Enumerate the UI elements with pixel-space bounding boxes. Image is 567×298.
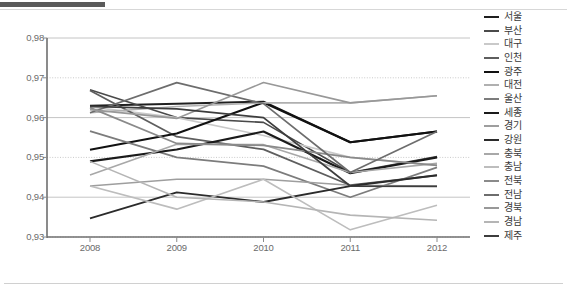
legend-item[interactable]: 대구 xyxy=(484,37,567,51)
y-tick-label: 0,94 xyxy=(2,191,44,202)
legend-swatch-icon xyxy=(484,57,499,59)
legend-item-label: 대구 xyxy=(504,39,522,49)
legend-item[interactable]: 인천 xyxy=(484,51,567,65)
x-tick-label: 2012 xyxy=(415,242,459,253)
series-line xyxy=(90,161,437,220)
legend-swatch-icon xyxy=(484,125,499,127)
legend-swatch-icon xyxy=(484,30,499,32)
legend-swatch-icon xyxy=(484,235,499,237)
legend-item-label: 경남 xyxy=(504,217,522,227)
legend-item-label: 충남 xyxy=(504,162,522,172)
legend-item-label: 경북 xyxy=(504,203,522,213)
line-chart: 0,980,970,960,950,940,93 200820092010201… xyxy=(0,14,567,276)
legend-item-label: 제주 xyxy=(504,231,522,241)
legend-swatch-icon xyxy=(484,194,499,196)
legend-swatch-icon xyxy=(484,84,499,86)
legend-swatch-icon xyxy=(484,16,499,18)
legend-item[interactable]: 세종 xyxy=(484,106,567,120)
legend-item[interactable]: 광주 xyxy=(484,65,567,79)
legend-item[interactable]: 경기 xyxy=(484,120,567,134)
legend-item[interactable]: 부산 xyxy=(484,24,567,38)
legend-item-label: 광주 xyxy=(504,67,522,77)
legend-item[interactable]: 전북 xyxy=(484,174,567,188)
chart-legend: 서울부산대구인천광주대전울산세종경기강원충북충남전북전남경북경남제주 xyxy=(484,10,567,243)
legend-item-label: 세종 xyxy=(504,108,522,118)
legend-swatch-icon xyxy=(484,139,499,141)
legend-item[interactable]: 강원 xyxy=(484,133,567,147)
y-tick-label: 0,93 xyxy=(2,231,44,242)
legend-swatch-icon xyxy=(484,98,499,100)
x-tick-label: 2010 xyxy=(242,242,286,253)
legend-item-label: 전남 xyxy=(504,190,522,200)
legend-item[interactable]: 경북 xyxy=(484,202,567,216)
legend-item[interactable]: 울산 xyxy=(484,92,567,106)
legend-swatch-icon xyxy=(484,221,499,223)
x-tick-label: 2011 xyxy=(328,242,372,253)
legend-swatch-icon xyxy=(484,112,499,114)
top-bar-decoration xyxy=(0,2,105,7)
legend-item-label: 충북 xyxy=(504,149,522,159)
legend-item-label: 부산 xyxy=(504,26,522,36)
legend-item[interactable]: 서울 xyxy=(484,10,567,24)
series-line xyxy=(90,83,437,173)
legend-swatch-icon xyxy=(484,180,499,182)
chart-plot-area xyxy=(0,14,567,276)
y-axis-labels: 0,980,970,960,950,940,93 xyxy=(0,14,44,276)
legend-item-label: 전북 xyxy=(504,176,522,186)
y-tick-label: 0,98 xyxy=(2,32,44,43)
chart-page: 0,980,970,960,950,940,93 200820092010201… xyxy=(0,0,567,298)
x-tick-label: 2009 xyxy=(155,242,199,253)
legend-swatch-icon xyxy=(484,166,499,168)
y-tick-label: 0,97 xyxy=(2,72,44,83)
legend-swatch-icon xyxy=(484,71,499,73)
legend-swatch-icon xyxy=(484,207,499,209)
x-tick-label: 2008 xyxy=(68,242,112,253)
legend-item[interactable]: 경남 xyxy=(484,215,567,229)
legend-item[interactable]: 전남 xyxy=(484,188,567,202)
legend-item-label: 경기 xyxy=(504,121,522,131)
legend-item-label: 울산 xyxy=(504,94,522,104)
legend-item[interactable]: 대전 xyxy=(484,78,567,92)
y-tick-label: 0,95 xyxy=(2,151,44,162)
x-axis-labels: 20082009201020112012 xyxy=(0,242,470,262)
legend-item-label: 서울 xyxy=(504,12,522,22)
legend-item[interactable]: 충북 xyxy=(484,147,567,161)
top-divider xyxy=(0,9,567,10)
legend-item-label: 인천 xyxy=(504,53,522,63)
bottom-divider xyxy=(4,283,563,284)
legend-item-label: 강원 xyxy=(504,135,522,145)
legend-swatch-icon xyxy=(484,153,499,155)
legend-swatch-icon xyxy=(484,43,499,45)
legend-item-label: 대전 xyxy=(504,80,522,90)
legend-item[interactable]: 제주 xyxy=(484,229,567,243)
y-tick-label: 0,96 xyxy=(2,112,44,123)
legend-item[interactable]: 충남 xyxy=(484,161,567,175)
